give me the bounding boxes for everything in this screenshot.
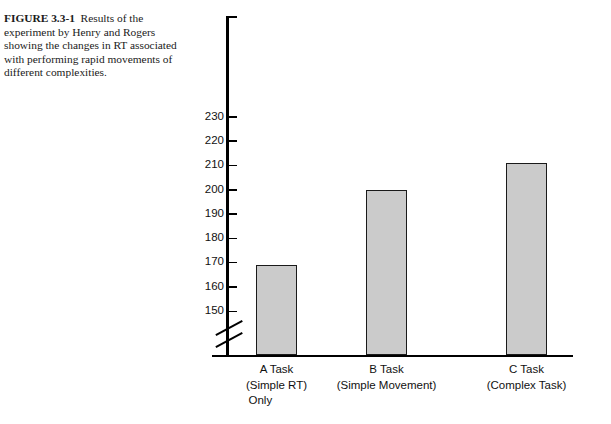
x-axis-line	[212, 355, 573, 357]
y-axis-line	[226, 16, 229, 357]
y-tick-label-220: 220	[190, 135, 224, 147]
category-label-3: C Task(Complex Task)	[442, 362, 611, 393]
y-tick-label-190: 190	[190, 208, 224, 220]
y-tick-label-170: 170	[190, 256, 224, 268]
y-tick-170	[229, 262, 237, 264]
y-tick-220	[229, 140, 237, 142]
y-tick-label-210: 210	[190, 159, 224, 171]
figure-page: FIGURE 3.3-1 Results of the experiment b…	[0, 0, 611, 424]
bar-1	[256, 265, 297, 355]
y-axis-break-icon	[212, 318, 246, 352]
axis-break-slash-lower	[215, 332, 242, 347]
y-tick-180	[229, 238, 237, 240]
figure-number: FIGURE 3.3-1	[4, 12, 75, 24]
y-tick-160	[229, 286, 237, 288]
bar-chart: 150160170180190200210220230 A Task(Simpl…	[190, 0, 611, 424]
y-tick-label-230: 230	[190, 111, 224, 123]
y-tick-label-160: 160	[190, 281, 224, 293]
y-tick-label-180: 180	[190, 232, 224, 244]
bar-3	[506, 163, 547, 355]
bar-2	[366, 190, 407, 356]
y-tick-190	[229, 213, 237, 215]
category-label-1-line-3: Only	[192, 393, 362, 409]
figure-caption: FIGURE 3.3-1 Results of the experiment b…	[4, 12, 190, 80]
category-label-3-line-1: C Task	[442, 362, 611, 378]
y-tick-200	[229, 189, 237, 191]
y-tick-label-150: 150	[190, 305, 224, 317]
y-axis-top-tick	[229, 16, 237, 18]
y-tick-230	[229, 116, 237, 118]
category-label-3-line-2: (Complex Task)	[442, 378, 611, 394]
y-tick-label-200: 200	[190, 184, 224, 196]
y-tick-150	[229, 311, 237, 313]
y-tick-210	[229, 165, 237, 167]
